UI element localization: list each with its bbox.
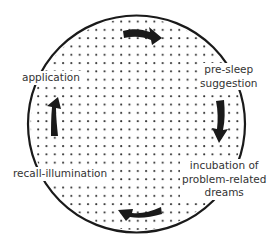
cycle-diagram: pre-sleep suggestion incubation of probl… bbox=[0, 0, 277, 248]
stage-incubation: incubation of problem-related dreams bbox=[180, 159, 268, 200]
stage-label-line: dreams bbox=[182, 186, 266, 200]
stage-label-line: application bbox=[22, 71, 80, 85]
stage-label-line: incubation of bbox=[182, 159, 266, 173]
stage-label-line: problem-related bbox=[182, 173, 266, 187]
stage-label-line: recall-illumination bbox=[13, 167, 107, 181]
stage-label-line: suggestion bbox=[200, 77, 258, 91]
stage-recall-illumination: recall-illumination bbox=[11, 167, 109, 181]
stage-label-line: pre-sleep bbox=[200, 63, 258, 77]
dotted-circle bbox=[0, 0, 277, 248]
stage-application: application bbox=[20, 71, 82, 85]
stage-pre-sleep-suggestion: pre-sleep suggestion bbox=[198, 63, 260, 90]
